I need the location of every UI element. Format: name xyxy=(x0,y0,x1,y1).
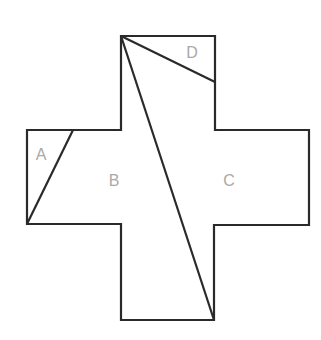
cross-diagram: A B C D xyxy=(0,0,321,340)
region-label-a: A xyxy=(36,146,47,163)
region-label-b: B xyxy=(109,172,120,189)
cut-line-long-diagonal xyxy=(121,36,214,320)
diagram-canvas: A B C D xyxy=(0,0,321,340)
region-label-c: C xyxy=(223,172,235,189)
cut-line-a xyxy=(27,130,73,224)
cut-line-d xyxy=(121,36,215,82)
region-label-d: D xyxy=(186,44,198,61)
